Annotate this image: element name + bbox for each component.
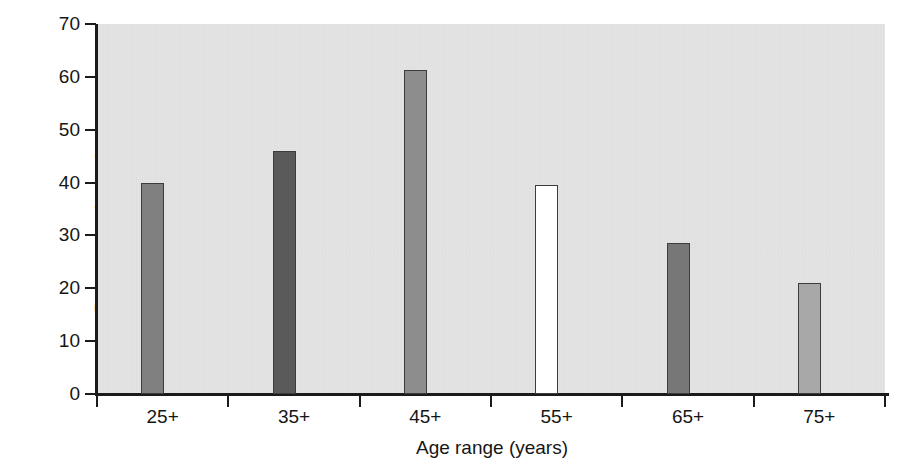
y-axis-tick [85,23,96,25]
y-axis-tick-label: 60 [38,66,80,88]
x-axis-tick [96,395,98,407]
x-axis-tick [884,395,886,407]
y-axis-tick-label: 0 [38,383,80,405]
x-axis-tick [359,395,361,407]
bar-chart-figure: Percentage incontinence 010203040506070 … [0,0,900,474]
x-axis-tick [227,395,229,407]
y-axis-tick-label: 30 [38,224,80,246]
y-axis-tick-label: 10 [38,330,80,352]
bar [141,183,164,394]
x-axis-title: Age range (years) [0,437,900,459]
x-axis-tick-label: 55+ [541,406,573,428]
y-axis-tick [85,129,96,131]
bar [667,243,690,394]
y-axis-tick [85,340,96,342]
y-axis-tick-label: 40 [38,172,80,194]
x-axis-tick-label: 45+ [409,406,441,428]
bar [273,151,296,394]
y-axis-tick-label: 50 [38,119,80,141]
y-axis-tick [85,76,96,78]
y-axis-tick [85,393,96,395]
x-axis-tick-label: 65+ [672,406,704,428]
y-axis-tick [85,182,96,184]
bar [404,70,427,394]
y-axis-tick-label: 20 [38,277,80,299]
x-axis-line [95,393,889,396]
x-axis-tick-label: 25+ [147,406,179,428]
x-axis-tick [621,395,623,407]
x-axis-tick-label: 35+ [278,406,310,428]
bar [798,283,821,394]
x-axis-title-text: Age range (years) [416,437,568,458]
bar [535,185,558,394]
plot-area-background [97,24,885,394]
y-axis-tick-label: 70 [38,13,80,35]
x-axis-tick [753,395,755,407]
y-axis-tick [85,287,96,289]
x-axis-tick [490,395,492,407]
y-axis-tick [85,234,96,236]
x-axis-tick-label: 75+ [803,406,835,428]
